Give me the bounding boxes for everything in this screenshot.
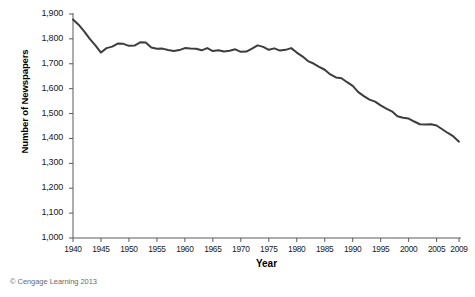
copyright-credit: © Cengage Learning 2013 (10, 277, 97, 286)
y-tick-label: 1,700 (25, 58, 63, 68)
y-tick-label: 1,400 (25, 132, 63, 142)
y-tick-label: 1,100 (25, 207, 63, 217)
y-tick-label: 1,900 (25, 8, 63, 18)
y-tick-label: 1,200 (25, 182, 63, 192)
x-tick-label: 2009 (442, 244, 475, 254)
y-tick-label: 1,500 (25, 108, 63, 118)
y-tick-label: 1,600 (25, 83, 63, 93)
y-tick-label: 1,300 (25, 157, 63, 167)
chart-figure: Number of Newspapers Year © Cengage Lear… (0, 0, 475, 297)
y-axis-title: Number of Newspapers (19, 32, 30, 172)
x-axis-title: Year (73, 258, 460, 269)
data-line-number-of-newspapers (73, 19, 459, 141)
y-tick-label: 1,000 (25, 232, 63, 242)
y-tick-label: 1,800 (25, 33, 63, 43)
